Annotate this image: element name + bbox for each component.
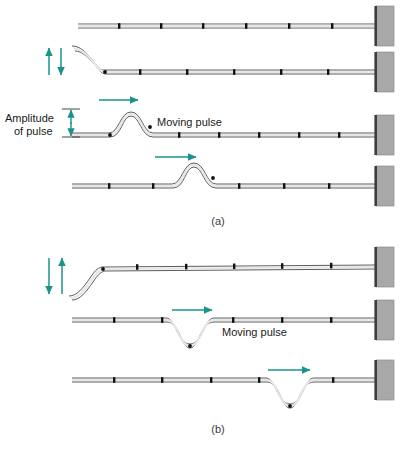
panel-b-row-3 — [72, 360, 394, 408]
panel-a-row-1 — [78, 6, 394, 46]
wall-a-2 — [374, 52, 394, 92]
wall-a-4 — [374, 166, 394, 206]
panel-a-row-3 — [62, 100, 394, 155]
panel-label-b: (b) — [198, 423, 238, 435]
rope-node-b-1 — [101, 267, 105, 271]
rope-a-3 — [72, 112, 376, 137]
wall-b-2 — [374, 300, 394, 340]
panel-label-a: (a) — [198, 215, 238, 227]
panel-b-row-2 — [72, 300, 394, 348]
rope-node-b-3 — [288, 404, 292, 408]
moving-pulse-label-a: Moving pulse — [157, 116, 222, 128]
rope-node-a-4 — [211, 176, 215, 180]
rope-b-1 — [69, 265, 376, 300]
rope-node-a-3-left — [108, 133, 112, 137]
wall-a-3 — [374, 115, 394, 155]
rope-node-b-2 — [188, 344, 192, 348]
rope-node-a-2 — [103, 70, 107, 74]
wall-a-1 — [374, 6, 394, 46]
moving-pulse-label-b: Moving pulse — [222, 326, 287, 338]
panel-a — [49, 6, 394, 206]
amplitude-label-line-2: of pulse — [14, 125, 53, 137]
amplitude-label-line-1: Amplitude — [5, 112, 54, 124]
panel-b-row-1 — [49, 247, 394, 300]
panel-a-row-4 — [72, 157, 394, 206]
panel-a-row-2 — [49, 46, 394, 92]
rope-a-2 — [72, 46, 376, 74]
wall-b-1 — [374, 247, 394, 287]
rope-node-a-3-right — [148, 125, 152, 129]
wall-b-3 — [374, 360, 394, 400]
rope-b-3 — [72, 378, 376, 408]
